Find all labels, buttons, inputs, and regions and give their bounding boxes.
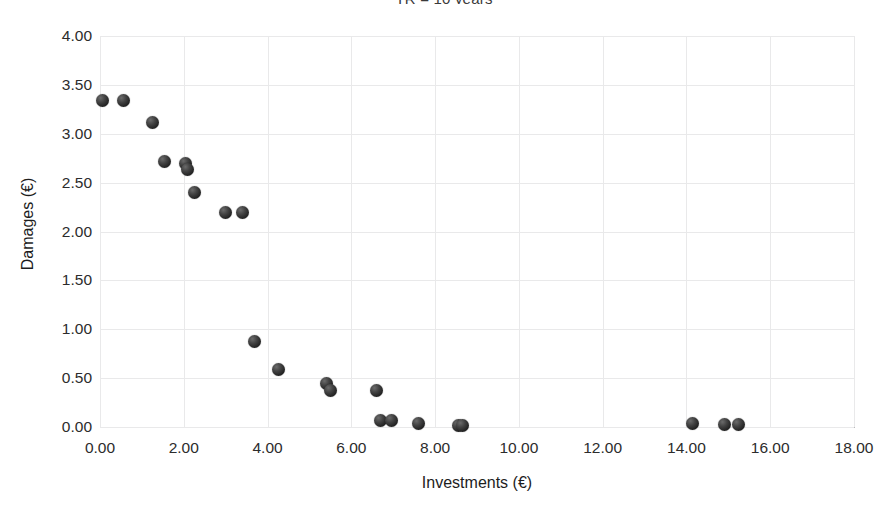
data-point (236, 206, 249, 219)
x-tick-label: 2.00 (139, 440, 229, 456)
gridline-horizontal (100, 36, 854, 37)
gridline-vertical (686, 36, 687, 427)
data-point (158, 155, 171, 168)
data-point (718, 418, 731, 431)
y-axis-title: Damages (€) (19, 104, 37, 344)
data-point (248, 335, 261, 348)
gridline-horizontal (100, 378, 854, 379)
data-point (686, 417, 699, 430)
data-point (146, 116, 159, 129)
y-tick-label: 0.00 (8, 419, 92, 435)
y-tick-label: 0.50 (8, 370, 92, 386)
plot-area (100, 36, 854, 427)
x-tick-label: 12.00 (558, 440, 648, 456)
x-axis-title: Investments (€) (100, 474, 854, 492)
data-point (272, 363, 285, 376)
data-point (324, 384, 337, 397)
chart-title: TR = 10 years (0, 0, 888, 4)
y-tick-label: 4.00 (8, 28, 92, 44)
gridline-vertical (770, 36, 771, 427)
gridline-horizontal (100, 329, 854, 330)
gridline-horizontal (100, 134, 854, 135)
x-tick-label: 6.00 (306, 440, 396, 456)
x-tick-label: 0.00 (55, 440, 145, 456)
gridline-vertical (603, 36, 604, 427)
gridline-horizontal (100, 85, 854, 86)
data-point (412, 417, 425, 430)
data-point (96, 94, 109, 107)
data-point (456, 419, 469, 432)
gridline-vertical (268, 36, 269, 427)
gridline-vertical (519, 36, 520, 427)
data-point (385, 414, 398, 427)
gridline-vertical (854, 36, 855, 427)
gridline-vertical (351, 36, 352, 427)
x-tick-label: 18.00 (809, 440, 888, 456)
gridline-horizontal (100, 183, 854, 184)
data-point (188, 186, 201, 199)
x-tick-label: 16.00 (725, 440, 815, 456)
data-point (117, 94, 130, 107)
scatter-chart: TR = 10 years 0.000.501.001.502.002.503.… (0, 0, 888, 506)
y-axis-tick-labels: 0.000.501.001.502.002.503.003.504.00 (0, 0, 92, 506)
x-tick-label: 4.00 (223, 440, 313, 456)
x-tick-label: 14.00 (641, 440, 731, 456)
x-tick-label: 8.00 (390, 440, 480, 456)
data-point (370, 384, 383, 397)
gridline-vertical (435, 36, 436, 427)
data-point (732, 418, 745, 431)
data-point (219, 206, 232, 219)
y-tick-label: 3.50 (8, 77, 92, 93)
gridline-vertical (184, 36, 185, 427)
gridline-horizontal (100, 232, 854, 233)
gridline-horizontal (100, 280, 854, 281)
x-tick-label: 10.00 (474, 440, 564, 456)
data-point (181, 163, 194, 176)
